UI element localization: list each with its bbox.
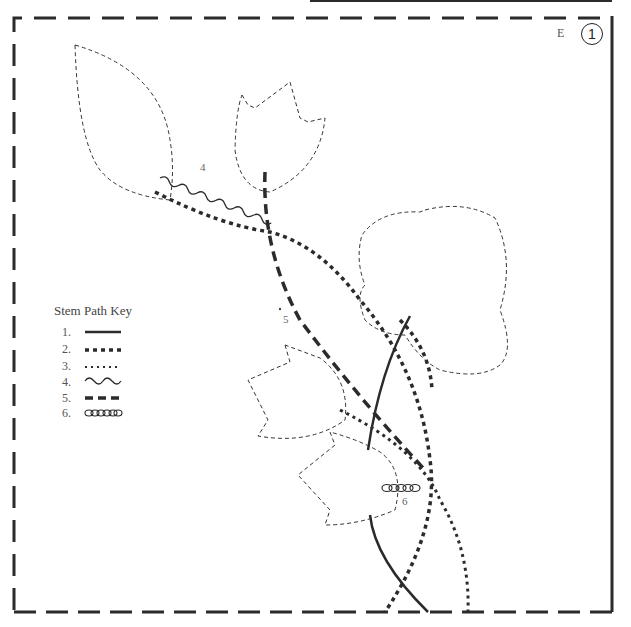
tulip-left-outline (248, 345, 346, 438)
path-label-6: 6 (402, 495, 408, 507)
tulip-outline (235, 82, 325, 192)
path-label-4: 4 (200, 161, 206, 173)
stem-path-2 (155, 192, 432, 612)
key-title: Stem Path Key (54, 303, 132, 319)
key-item-4: 4. (62, 375, 71, 390)
block-number-badge: 1 (581, 23, 603, 45)
key-samples (85, 332, 122, 416)
key-item-2: 2. (62, 342, 71, 357)
leaf-outline (75, 45, 173, 200)
key-item-6: 6. (62, 406, 71, 421)
stem-path-3 (340, 410, 468, 612)
key-item-5: 5. (62, 391, 71, 406)
stem-path-2b (400, 320, 432, 390)
flower-outline (359, 206, 507, 374)
key-item-1: 1. (62, 325, 71, 340)
stem-path-1b (370, 515, 428, 612)
marker-dot (279, 308, 281, 310)
section-letter: E (557, 26, 564, 41)
stem-path-6 (382, 485, 420, 492)
path-label-5: 5 (283, 313, 289, 325)
key-item-3: 3. (62, 359, 71, 374)
tulip-lower-outline (298, 432, 398, 525)
